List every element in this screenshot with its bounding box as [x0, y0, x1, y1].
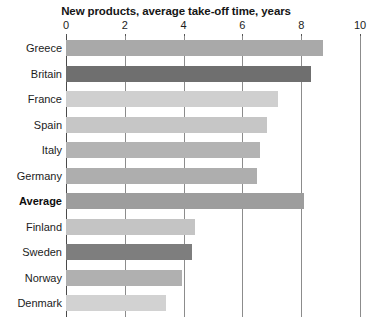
- bar-finland: [66, 219, 195, 235]
- bar-row: [66, 164, 360, 190]
- x-tick-label-10: 10: [354, 19, 366, 31]
- x-tick-label-0: 0: [63, 19, 69, 31]
- bar-row: [66, 266, 360, 292]
- bar-row: [66, 189, 360, 215]
- x-tick-label-2: 2: [122, 19, 128, 31]
- bar-britain: [66, 66, 311, 82]
- category-label-germany: Germany: [17, 164, 62, 190]
- bar-series: [66, 36, 360, 317]
- bar-row: [66, 113, 360, 139]
- category-axis-labels: GreeceBritainFranceSpainItalyGermanyAver…: [0, 36, 62, 317]
- bar-row: [66, 138, 360, 164]
- bar-spain: [66, 117, 267, 133]
- x-tick-label-4: 4: [181, 19, 187, 31]
- bar-row: [66, 240, 360, 266]
- bar-germany: [66, 168, 257, 184]
- bar-sweden: [66, 244, 192, 260]
- x-tick-label-6: 6: [239, 19, 245, 31]
- category-label-britain: Britain: [31, 62, 62, 88]
- category-label-average: Average: [19, 189, 62, 215]
- category-label-denmark: Denmark: [17, 291, 62, 317]
- category-label-italy: Italy: [42, 138, 62, 164]
- bar-norway: [66, 270, 182, 286]
- category-label-norway: Norway: [25, 266, 62, 292]
- x-axis-tick-labels: 0246810: [0, 0, 370, 36]
- bar-row: [66, 36, 360, 62]
- category-label-spain: Spain: [34, 113, 62, 139]
- bar-chart: New products, average take-off time, yea…: [0, 0, 370, 317]
- gridline-10: [360, 36, 361, 317]
- bar-row: [66, 87, 360, 113]
- bar-row: [66, 291, 360, 317]
- category-label-france: France: [28, 87, 62, 113]
- bar-average: [66, 193, 304, 209]
- plot-area: [66, 36, 360, 317]
- bar-france: [66, 91, 278, 107]
- bar-greece: [66, 40, 323, 56]
- x-tick-label-8: 8: [298, 19, 304, 31]
- bar-row: [66, 215, 360, 241]
- category-label-finland: Finland: [26, 215, 62, 241]
- bar-row: [66, 62, 360, 88]
- bar-denmark: [66, 295, 166, 311]
- bar-italy: [66, 142, 260, 158]
- category-label-greece: Greece: [26, 36, 62, 62]
- category-label-sweden: Sweden: [22, 240, 62, 266]
